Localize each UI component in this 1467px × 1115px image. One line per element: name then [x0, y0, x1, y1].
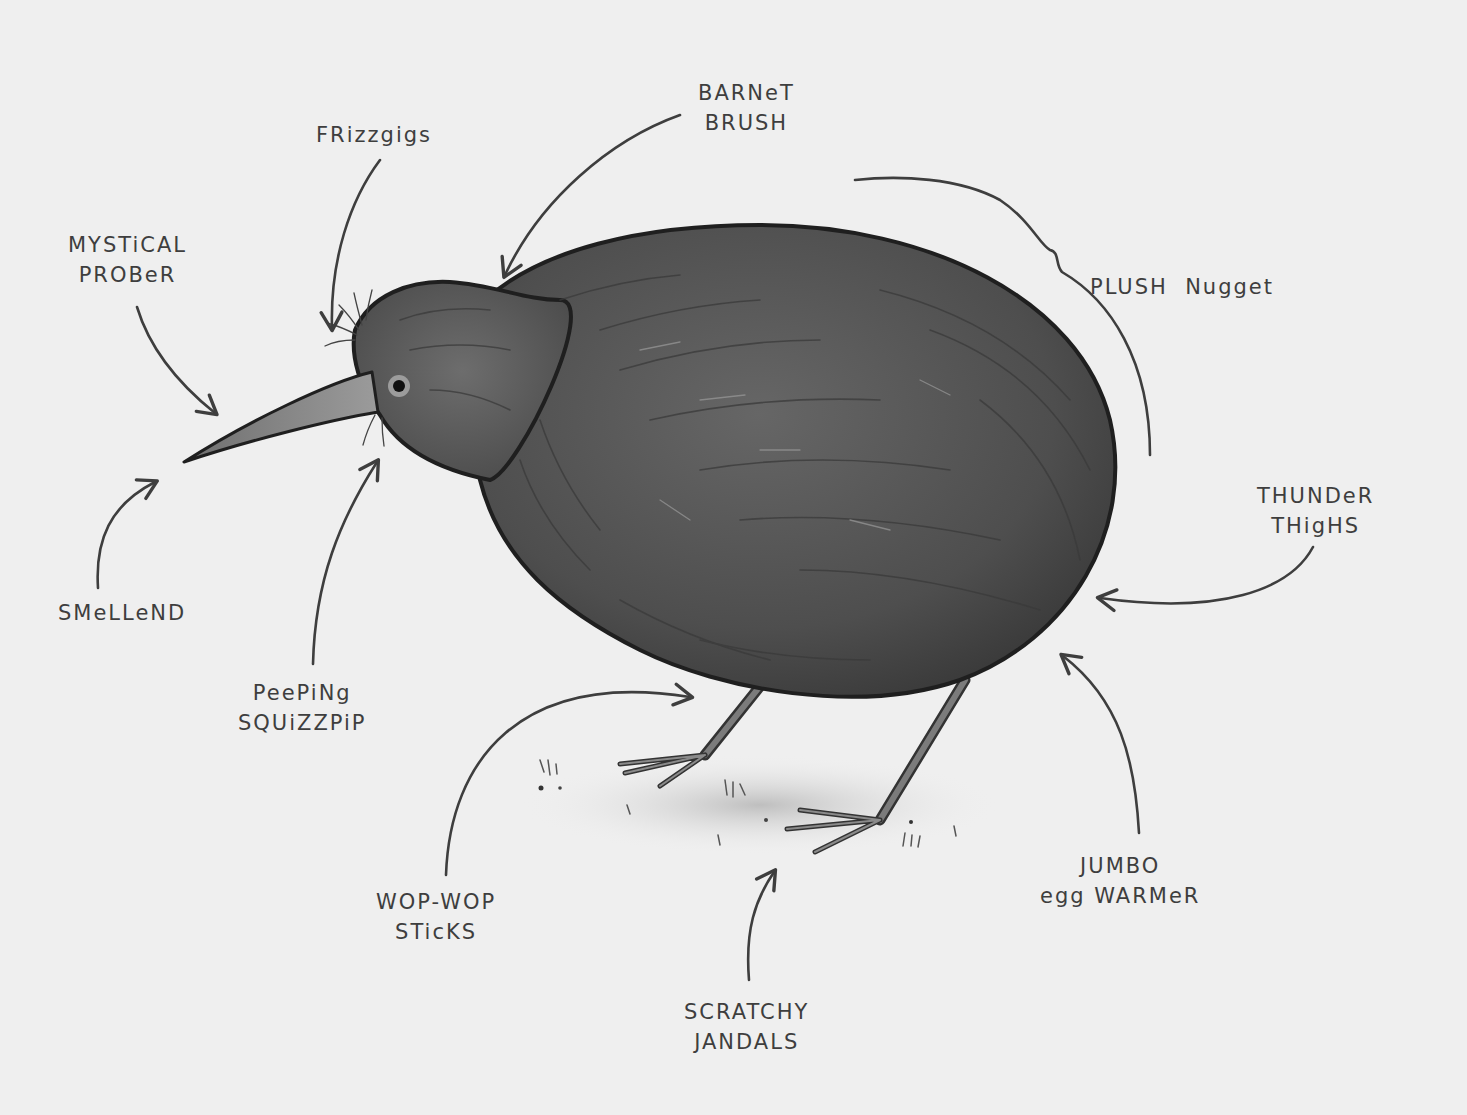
label-peeping-squizzpip: PeePiNg SQUiZZPiP [238, 678, 367, 738]
kiwi-beak [184, 372, 378, 462]
arrow-smellend [98, 482, 155, 588]
arrow-thunder-thighs [1100, 547, 1313, 603]
label-jumbo-egg-warmer: JUMBO egg WARMeR [1040, 851, 1200, 911]
label-frizzgigs: FRizzgigs [316, 120, 432, 150]
label-thunder-thighs: THUNDeR THigHS [1257, 481, 1374, 541]
label-smellend: SMeLLeND [58, 598, 186, 628]
label-wop-wop-sticks: WOP-WOP STicKS [376, 887, 496, 947]
label-barnet-brush: BARNeT BRUSH [698, 78, 795, 138]
label-scratchy-jandals: SCRATCHY JANDALS [684, 997, 809, 1057]
label-plush-nugget: PLUSH Nugget [1090, 212, 1274, 332]
kiwi-eye [388, 375, 410, 397]
arrow-peeping-squizzpip [313, 462, 377, 664]
arrow-mystical-prober [137, 307, 215, 413]
ground-shadow [520, 755, 1000, 855]
label-mystical-prober: MYSTiCAL PROBeR [68, 230, 187, 290]
arrow-jumbo-egg-warmer [1063, 656, 1139, 833]
arrow-scratchy-jandals [748, 872, 774, 980]
kiwi-diagram-canvas [0, 0, 1467, 1115]
